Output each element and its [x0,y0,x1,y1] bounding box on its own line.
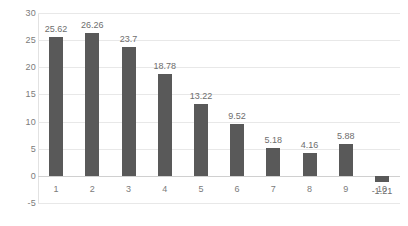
plot-area [38,13,400,203]
bar [49,37,63,176]
bar [375,176,389,183]
x-tick-label: 3 [109,185,149,194]
x-tick-label: 7 [253,185,293,194]
bars-group [38,13,400,203]
y-tick-label: 20 [6,63,36,72]
y-tick-label: 25 [6,36,36,45]
gridline--5 [38,203,400,204]
bar [122,47,136,176]
y-tick-label: 5 [6,145,36,154]
bar [339,144,353,176]
bar-value-label: 9.52 [217,112,257,121]
bar-value-label: 5.88 [326,132,366,141]
x-tick-label: 9 [326,185,366,194]
x-tick-label: 2 [72,185,112,194]
bar [158,74,172,176]
bar-value-label: 5.18 [253,136,293,145]
bar-value-label: -1.21 [362,187,402,196]
bar-value-label: 13.22 [181,92,221,101]
y-tick-label: -5 [6,199,36,208]
bar-value-label: 26.26 [72,21,112,30]
x-tick-label: 8 [290,185,330,194]
x-tick-label: 6 [217,185,257,194]
x-tick-label: 1 [36,185,76,194]
bar [303,153,317,176]
bar-value-label: 25.62 [36,25,76,34]
y-tick-label: 0 [6,172,36,181]
bar [194,104,208,176]
bar [266,148,280,176]
bar-chart: 302520151050-5 12345678910 25.6226.2623.… [0,0,408,226]
bar-value-label: 23.7 [109,35,149,44]
bar-value-label: 18.78 [145,62,185,71]
bar [85,33,99,176]
x-tick-label: 4 [145,185,185,194]
y-tick-label: 30 [6,9,36,18]
x-tick-label: 5 [181,185,221,194]
y-tick-label: 15 [6,90,36,99]
bar-value-label: 4.16 [290,141,330,150]
y-tick-label: 10 [6,118,36,127]
bar [230,124,244,176]
